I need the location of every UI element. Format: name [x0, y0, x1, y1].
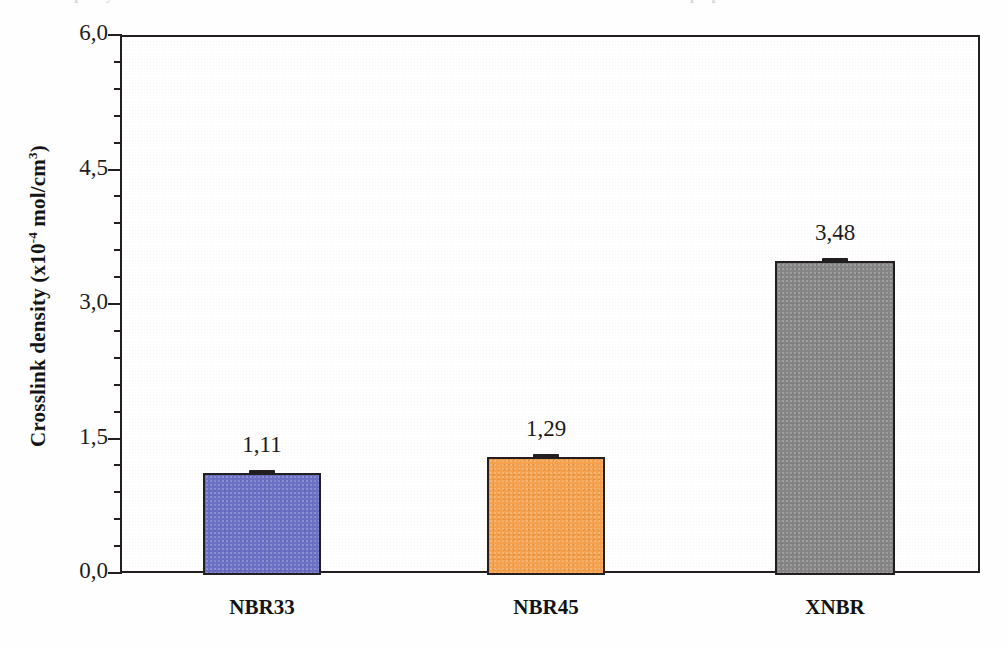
error-bar-xnbr — [822, 258, 848, 263]
y-axis-title-exponent: -4 — [25, 232, 40, 243]
error-bar-nbr33 — [249, 470, 275, 475]
y-tick-label: 1,5 — [62, 424, 108, 450]
plot-area — [120, 35, 980, 573]
bar-nbr33 — [203, 473, 321, 575]
y-tick-label: 6,0 — [62, 20, 108, 46]
x-category-label-nbr33: NBR33 — [153, 595, 371, 620]
bar-value-label: 3,48 — [745, 220, 925, 246]
error-bar-nbr45 — [533, 454, 559, 459]
x-category-label-xnbr: XNBR — [725, 595, 945, 620]
y-axis-tick-labels: 0,01,53,04,56,0 — [46, 0, 108, 647]
y-tick-label: 0,0 — [62, 558, 108, 584]
y-axis-title-tail-exponent: 3 — [25, 152, 40, 159]
bar-value-label: 1,11 — [173, 432, 351, 458]
bar-value-label: 1,29 — [457, 416, 635, 442]
bar-xnbr — [775, 261, 895, 575]
y-tick-label: 3,0 — [62, 289, 108, 315]
x-category-label-nbr45: NBR45 — [437, 595, 655, 620]
bar-nbr45 — [487, 457, 605, 575]
y-tick-label: 4,5 — [62, 155, 108, 181]
bar-chart-figure: Crosslink density (x10-4 mol/cm3) 0,01,5… — [0, 0, 1008, 647]
